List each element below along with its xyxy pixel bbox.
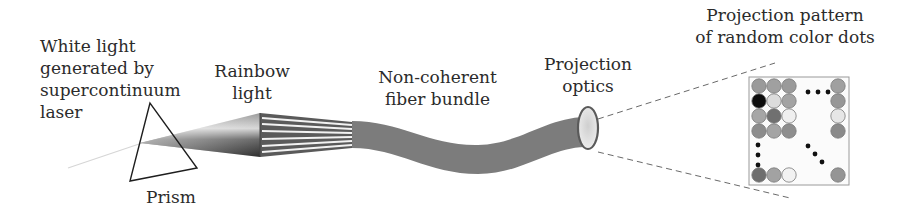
- incoming-light-beam: [68, 143, 142, 168]
- projection-lens: [578, 107, 598, 149]
- color-dot: [752, 109, 766, 123]
- color-dot: [767, 168, 781, 182]
- color-dot: [767, 109, 781, 123]
- projection-pattern: [749, 77, 849, 185]
- label-projection-optics: Projection optics: [538, 53, 638, 97]
- color-dot: [752, 168, 766, 182]
- color-dot: [782, 94, 796, 108]
- fiber-bundle: [352, 117, 585, 174]
- color-dot: [767, 124, 781, 138]
- label-projection-pattern: Projection pattern of random color dots: [690, 4, 880, 48]
- color-dot: [782, 124, 796, 138]
- color-dot: [782, 109, 796, 123]
- color-dot: [782, 79, 796, 93]
- color-dot: [782, 168, 796, 182]
- color-dot: [752, 94, 766, 108]
- label-supercontinuum-laser: White light generated by supercontinuum …: [40, 35, 181, 123]
- color-dot: [767, 94, 781, 108]
- label-prism: Prism: [146, 186, 196, 208]
- color-dot: [831, 124, 845, 138]
- color-dot: [831, 109, 845, 123]
- color-dot: [767, 79, 781, 93]
- color-dot: [831, 168, 845, 182]
- color-dot: [831, 79, 845, 93]
- color-dot: [752, 79, 766, 93]
- label-fiber-bundle: Non-coherent fiber bundle: [365, 66, 510, 110]
- color-dot: [831, 94, 845, 108]
- color-dot: [752, 124, 766, 138]
- label-rainbow-light: Rainbow light: [212, 60, 292, 104]
